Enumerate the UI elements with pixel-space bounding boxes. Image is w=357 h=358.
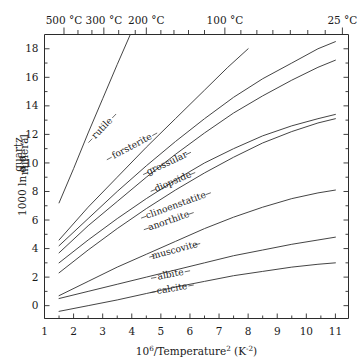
curve-label-leader-right xyxy=(152,133,157,136)
curve-rutile xyxy=(59,35,130,203)
top-temp-label-25C: 25 °C xyxy=(327,14,357,26)
curve-label-rutile: rutile xyxy=(89,115,115,141)
top-temp-label-100C: 100 °C xyxy=(207,14,244,26)
y-axis-title-sub-bottom: mineral xyxy=(18,133,30,175)
curve-label-leader-right xyxy=(188,285,193,286)
curve-label-leader-right xyxy=(188,213,193,215)
y-tick-label-6: 6 xyxy=(32,214,39,226)
x-tick-label-1: 1 xyxy=(41,325,48,337)
x-tick-label-2: 2 xyxy=(70,325,77,337)
curve-label-leader-left xyxy=(151,277,156,278)
y-tick-label-18: 18 xyxy=(25,42,38,54)
x-axis-title: 106/Temperature2 (K-2) xyxy=(136,344,257,357)
curve-label-text-forsterite: forsterite xyxy=(110,130,154,160)
curve-label-leader-right xyxy=(190,173,195,175)
top-temp-label-500C: 500 °C xyxy=(46,14,83,26)
curve-label-albite: albite xyxy=(156,266,184,282)
x-tick-label-4: 4 xyxy=(128,325,135,337)
x-tick-label-9: 9 xyxy=(274,325,281,337)
curve-muscovite xyxy=(59,190,335,296)
curve-label-leader-right xyxy=(185,271,190,272)
curve-label-leader-right xyxy=(112,114,116,118)
curve-label-text-albite: albite xyxy=(156,266,184,282)
y-tick-label-2: 2 xyxy=(32,271,39,283)
curve-label-leader-left xyxy=(150,292,155,293)
y-tick-label-8: 8 xyxy=(32,185,39,197)
y-axis-title: 1000 ln α αquartzmineral xyxy=(12,133,30,216)
curve-label-leader-right xyxy=(206,193,211,195)
x-tick-label-6: 6 xyxy=(187,325,194,337)
curve-label-calcite: calcite xyxy=(156,280,188,296)
x-tick-label-3: 3 xyxy=(99,325,106,337)
curve-diopside xyxy=(59,60,335,253)
oxygen-isotope-fractionation-chart: 1234567891011024681012141618500 °C300 °C… xyxy=(0,0,357,358)
x-tick-label-5: 5 xyxy=(158,325,165,337)
curve-label-text-rutile: rutile xyxy=(89,115,115,141)
x-tick-label-10: 10 xyxy=(300,325,313,337)
x-tick-label-7: 7 xyxy=(216,325,223,337)
x-tick-label-11: 11 xyxy=(329,325,342,337)
y-tick-label-0: 0 xyxy=(32,299,39,311)
y-tick-label-4: 4 xyxy=(32,242,39,254)
y-tick-label-16: 16 xyxy=(25,71,39,83)
curve-label-leader-left xyxy=(107,157,112,160)
curve-label-leader-left xyxy=(88,139,92,143)
figure-container: 1234567891011024681012141618500 °C300 °C… xyxy=(0,0,357,358)
top-temp-label-200C: 200 °C xyxy=(128,14,165,26)
top-temp-label-300C: 300 °C xyxy=(86,14,123,26)
plot-frame xyxy=(45,35,349,319)
curve-label-forsterite: forsterite xyxy=(110,130,154,160)
curve-calcite xyxy=(59,263,335,312)
curve-label-leader-right xyxy=(186,152,191,154)
curve-label-text-calcite: calcite xyxy=(156,280,188,296)
y-tick-label-14: 14 xyxy=(25,99,39,111)
x-tick-label-8: 8 xyxy=(245,325,252,337)
